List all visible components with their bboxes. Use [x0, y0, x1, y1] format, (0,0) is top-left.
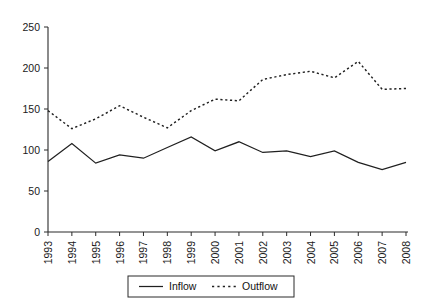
series-line-inflow	[48, 137, 406, 170]
legend-label-inflow: Inflow	[169, 280, 197, 292]
x-tick-label: 2007	[376, 241, 388, 265]
x-tick-label: 2005	[328, 241, 340, 265]
x-tick-label: 1995	[90, 241, 102, 265]
x-tick-label: 1998	[161, 241, 173, 265]
y-tick-label: 0	[34, 226, 40, 238]
x-tick-label: 2000	[209, 241, 221, 265]
x-tick-label: 2002	[257, 241, 269, 265]
x-tick-label: 1996	[114, 241, 126, 265]
y-tick-label: 150	[22, 103, 40, 115]
y-axis-ticks: 050100150200250	[22, 21, 48, 238]
x-axis-ticks: 1993199419951996199719981999200020012002…	[42, 232, 412, 264]
chart-svg: 050100150200250 199319941995199619971998…	[0, 0, 422, 305]
y-tick-label: 250	[22, 21, 40, 33]
x-tick-label: 1999	[185, 241, 197, 265]
x-tick-label: 2006	[352, 241, 364, 265]
y-tick-label: 100	[22, 144, 40, 156]
line-chart: 050100150200250 199319941995199619971998…	[0, 0, 422, 305]
x-tick-label: 2004	[305, 241, 317, 265]
x-tick-label: 1997	[137, 241, 149, 265]
chart-legend: Inflow Outflow	[128, 276, 294, 297]
legend-label-outflow: Outflow	[242, 280, 278, 292]
x-tick-label: 2008	[400, 241, 412, 265]
y-tick-label: 200	[22, 62, 40, 74]
x-tick-label: 2001	[233, 241, 245, 265]
x-tick-label: 2003	[281, 241, 293, 265]
series-line-outflow	[48, 61, 406, 128]
y-tick-label: 50	[28, 185, 40, 197]
x-tick-label: 1993	[42, 241, 54, 265]
x-tick-label: 1994	[66, 241, 78, 265]
